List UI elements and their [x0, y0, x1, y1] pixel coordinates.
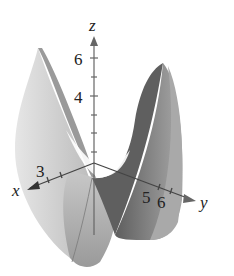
z-tick-4: 4: [74, 89, 83, 106]
y-tick-5: 5: [142, 189, 151, 206]
y-axis-label: y: [200, 194, 208, 211]
y-tick-6: 6: [157, 194, 166, 211]
x-tick-3: 3: [36, 163, 45, 180]
saddle-surface-plot: [0, 0, 234, 276]
z-tick-6: 6: [74, 51, 83, 68]
z-axis-label: z: [89, 17, 96, 34]
x-axis-label: x: [12, 182, 20, 199]
